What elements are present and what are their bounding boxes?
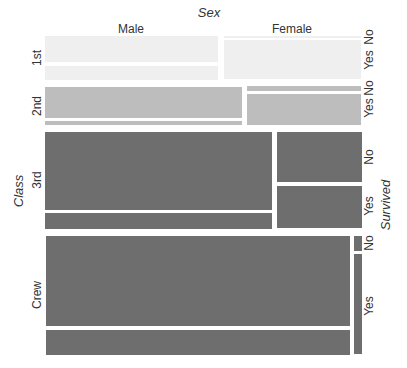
tile-crew-male-no xyxy=(46,236,350,326)
survived-label-crew-yes: Yes xyxy=(362,296,376,316)
tile-3rd-male-yes xyxy=(45,213,272,229)
tile-1st-female-no xyxy=(224,36,361,38)
class-label-1st: 1st xyxy=(30,50,44,66)
survived-label-3rd-no: No xyxy=(362,149,376,164)
survived-label-2nd-yes: Yes xyxy=(362,98,376,118)
tile-3rd-female-no xyxy=(277,132,362,182)
tile-2nd-male-yes xyxy=(45,121,242,125)
survived-label-crew-no: No xyxy=(362,235,376,250)
tile-crew-female-no xyxy=(354,236,362,251)
sex-axis-title: Sex xyxy=(198,5,220,20)
class-label-2nd: 2nd xyxy=(30,96,44,116)
tile-3rd-female-yes xyxy=(277,186,362,228)
class-axis-title: Class xyxy=(11,175,26,208)
survived-axis-title: Survived xyxy=(378,180,393,231)
tile-2nd-female-yes xyxy=(247,94,361,125)
tile-crew-female-yes xyxy=(354,254,362,354)
tile-crew-male-yes xyxy=(46,330,350,355)
survived-label-1st-no: No xyxy=(362,29,376,44)
class-label-crew: Crew xyxy=(30,281,44,309)
tile-1st-male-yes xyxy=(45,66,218,80)
tile-1st-male-no xyxy=(45,36,218,62)
tile-1st-female-yes xyxy=(224,40,361,79)
tile-3rd-male-no xyxy=(45,132,272,210)
survived-label-3rd-yes: Yes xyxy=(362,196,376,216)
tile-2nd-male-no xyxy=(45,87,242,118)
tile-2nd-female-no xyxy=(247,86,361,91)
survived-label-2nd-no: No xyxy=(362,80,376,95)
sex-label-male: Male xyxy=(118,22,144,36)
survived-label-1st-yes: Yes xyxy=(362,50,376,70)
sex-label-female: Female xyxy=(272,22,312,36)
mosaic-plot: Sex Class Survived Male Female 1st 2nd 3… xyxy=(0,0,407,368)
class-label-3rd: 3rd xyxy=(30,171,44,188)
